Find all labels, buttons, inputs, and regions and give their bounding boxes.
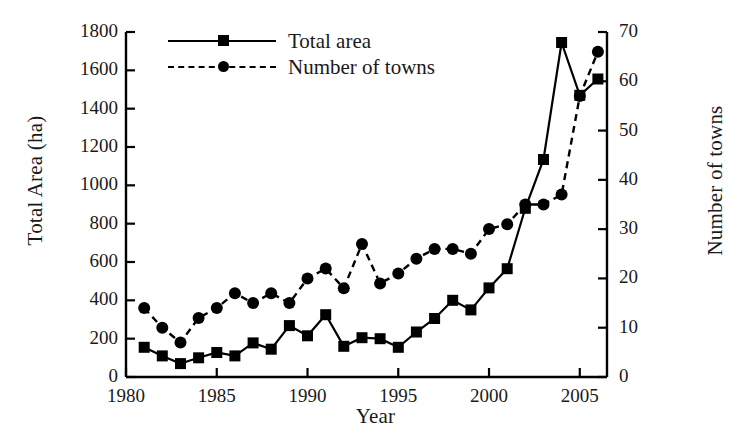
data-point-square — [302, 330, 313, 341]
data-point-circle — [320, 263, 332, 275]
data-point-circle — [302, 272, 314, 284]
data-point-circle — [519, 199, 531, 211]
data-point-circle — [410, 253, 422, 265]
y-tick-label-left: 1200 — [22, 135, 118, 157]
x-tick-label: 1990 — [263, 385, 353, 407]
data-point-circle — [265, 287, 277, 299]
y-tick-label-left: 1400 — [22, 97, 118, 119]
data-point-circle — [501, 218, 513, 230]
data-point-square — [193, 352, 204, 363]
x-tick-label: 1985 — [172, 385, 262, 407]
data-point-circle — [447, 243, 459, 255]
data-point-square — [357, 332, 368, 343]
data-point-square — [447, 295, 458, 306]
data-point-circle — [556, 189, 568, 201]
data-point-circle — [465, 248, 477, 260]
y-tick-label-right: 0 — [619, 365, 679, 387]
data-point-square — [556, 37, 567, 48]
data-point-square — [175, 358, 186, 369]
data-point-square — [592, 74, 603, 85]
data-point-circle — [574, 90, 586, 102]
data-point-circle — [483, 223, 495, 235]
data-point-square — [465, 304, 476, 315]
data-point-square — [229, 350, 240, 361]
y-tick-label-left: 1800 — [22, 20, 118, 42]
y-tick-label-right: 50 — [619, 119, 679, 141]
data-point-circle — [538, 199, 550, 211]
data-point-square — [266, 344, 277, 355]
data-point-square — [375, 333, 386, 344]
y-tick-label-right: 10 — [619, 316, 679, 338]
y-tick-label-left: 1000 — [22, 173, 118, 195]
y-tick-label-left: 800 — [22, 212, 118, 234]
data-point-square — [538, 154, 549, 165]
data-point-circle — [211, 302, 223, 314]
data-point-square — [248, 337, 259, 348]
data-point-circle — [429, 243, 441, 255]
data-point-circle — [338, 282, 350, 294]
y-tick-label-left: 400 — [22, 288, 118, 310]
data-point-circle — [392, 268, 404, 280]
data-point-square — [284, 320, 295, 331]
y-tick-label-right: 30 — [619, 217, 679, 239]
data-point-square — [211, 347, 222, 358]
data-point-square — [320, 309, 331, 320]
data-point-circle — [138, 302, 150, 314]
data-point-circle — [156, 322, 168, 334]
data-point-square — [139, 342, 150, 353]
x-tick-label: 2000 — [444, 385, 534, 407]
data-point-square — [393, 342, 404, 353]
data-point-circle — [175, 337, 187, 349]
data-point-circle — [356, 238, 368, 250]
data-point-circle — [592, 46, 604, 58]
y-tick-label-right: 70 — [619, 20, 679, 42]
y-tick-label-right: 20 — [619, 266, 679, 288]
data-point-circle — [247, 297, 259, 309]
data-point-square — [502, 263, 513, 274]
data-point-circle — [283, 297, 295, 309]
y-tick-label-left: 600 — [22, 250, 118, 272]
x-tick-label: 1995 — [353, 385, 443, 407]
data-point-square — [429, 313, 440, 324]
data-point-circle — [374, 277, 386, 289]
data-point-square — [484, 282, 495, 293]
data-point-circle — [193, 312, 205, 324]
data-point-circle — [229, 287, 241, 299]
data-point-square — [411, 327, 422, 338]
y-tick-label-right: 40 — [619, 168, 679, 190]
x-tick-label: 2005 — [535, 385, 625, 407]
y-tick-label-left: 200 — [22, 327, 118, 349]
data-point-square — [157, 350, 168, 361]
y-tick-label-right: 60 — [619, 69, 679, 91]
chart-figure: Total Area (ha) Number of towns Year Tot… — [0, 0, 751, 445]
y-tick-label-left: 0 — [22, 365, 118, 387]
y-tick-label-left: 1600 — [22, 58, 118, 80]
x-tick-label: 1980 — [81, 385, 171, 407]
data-point-square — [338, 341, 349, 352]
